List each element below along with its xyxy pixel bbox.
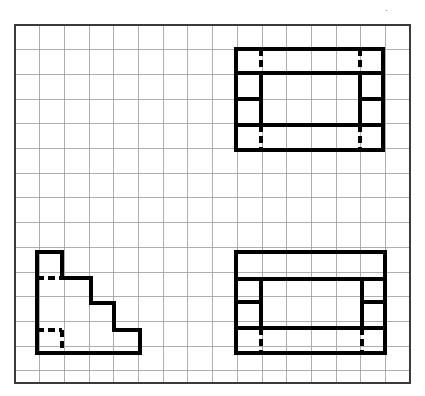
stray-pencil-mark: · [385,5,388,15]
drawing-page: · Orthographic Projection Exercise on Gr… [0,0,425,396]
orthographic-drawing-canvas: · [0,0,425,396]
stray-marks-layer: · [385,5,388,15]
